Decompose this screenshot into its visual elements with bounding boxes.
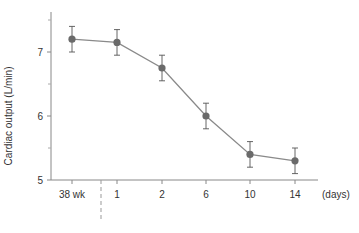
x-axis-unit-label: (days) — [322, 189, 350, 200]
x-tick-label: 1 — [114, 189, 120, 200]
cardiac-output-chart: 567 38 wk1261014 Cardiac output (L/min) … — [0, 0, 359, 233]
y-tick-label: 5 — [37, 175, 43, 186]
axes — [51, 12, 318, 180]
y-tick-label: 7 — [37, 47, 43, 58]
y-axis-label: Cardiac output (L/min) — [3, 67, 14, 166]
data-point-marker — [202, 112, 209, 119]
x-tick-label: 10 — [244, 189, 256, 200]
x-ticks: 38 wk1261014 — [59, 180, 301, 200]
x-tick-label: 6 — [203, 189, 209, 200]
data-point-marker — [291, 157, 298, 164]
data-series — [68, 26, 298, 173]
series-line — [72, 39, 295, 161]
y-tick-label: 6 — [37, 111, 43, 122]
data-point-marker — [246, 151, 253, 158]
x-tick-label: 38 wk — [59, 189, 86, 200]
data-point-marker — [158, 64, 165, 71]
x-tick-label: 14 — [289, 189, 301, 200]
x-tick-label: 2 — [159, 189, 165, 200]
data-point-marker — [68, 36, 75, 43]
data-point-marker — [113, 39, 120, 46]
y-ticks: 567 — [37, 20, 51, 186]
